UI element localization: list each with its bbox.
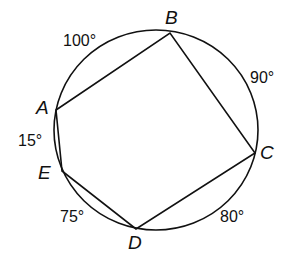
point-label-e: E bbox=[38, 163, 51, 182]
diagram: B A C E D 100° 90° 15° 75° 80° bbox=[0, 0, 294, 262]
point-label-c: C bbox=[260, 143, 274, 162]
circle-figure bbox=[0, 0, 294, 262]
arc-label-ea: 15° bbox=[18, 133, 42, 149]
circle bbox=[54, 30, 258, 230]
point-label-a: A bbox=[36, 98, 49, 117]
point-label-d: D bbox=[128, 233, 142, 252]
arc-label-cd: 80° bbox=[220, 209, 244, 225]
arc-label-ab: 100° bbox=[63, 33, 96, 49]
pentagon bbox=[56, 33, 255, 229]
point-label-b: B bbox=[165, 8, 178, 27]
arc-label-bc: 90° bbox=[250, 70, 274, 86]
arc-label-de: 75° bbox=[60, 209, 84, 225]
